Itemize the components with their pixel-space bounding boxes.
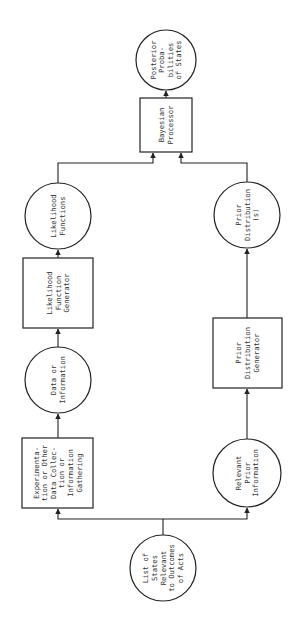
node-likelihood-gen-label-line: Generator (62, 273, 71, 313)
node-relevant-prior: RelevantPriorInformation (213, 439, 281, 507)
node-bayesian-label: BayesianProcessor (157, 105, 175, 145)
node-relevant-prior-label-line: Information (251, 449, 260, 497)
node-likelihood-funcs-label: LikelihoodFunctions (49, 194, 67, 237)
node-likelihood-gen-label: LikelihoodFunctionGenerator (45, 271, 71, 314)
node-prior-gen-label-line: Generator (252, 333, 261, 373)
node-list-states-label-line: of Acts (176, 553, 185, 583)
node-likelihood-funcs-label-line: Functions (58, 197, 67, 236)
node-list-states: List ofStatesRelevantto Outcomesof Acts (130, 535, 196, 601)
node-posterior: PosteriorProba-bilitiesof States (136, 30, 196, 90)
bayesian-flow-diagram: List ofStatesRelevantto Outcomesof ActsE… (0, 0, 302, 629)
edge-list-states-to-experimentation (58, 509, 163, 535)
node-posterior-label-line: of States (174, 41, 183, 80)
node-bayesian: BayesianProcessor (140, 98, 192, 152)
edge-likelihood-funcs-to-bayesian (58, 153, 153, 183)
node-experimentation: Experimenta-tion or OtherData Collec-tio… (22, 438, 93, 508)
node-likelihood-funcs: LikelihoodFunctions (25, 183, 91, 249)
node-experimentation-label-line: Gathering (75, 454, 84, 493)
edge-prior-dist-to-bayesian (181, 153, 247, 182)
node-posterior-label: PosteriorProba-bilitiesof States (149, 40, 184, 80)
node-prior-dist-label-line: (s) (251, 209, 260, 222)
edge-list-states-to-relevant-prior (163, 508, 247, 519)
node-data-info: Data orInformation (25, 347, 91, 413)
node-bayesian-label-line: Processor (166, 105, 175, 145)
node-likelihood-gen: LikelihoodFunctionGenerator (23, 258, 93, 328)
node-prior-dist: PriorDistribution(s) (214, 182, 280, 248)
node-prior-gen: PriorDistributionGenerator (213, 318, 282, 388)
node-data-info-label-line: Information (58, 356, 67, 404)
